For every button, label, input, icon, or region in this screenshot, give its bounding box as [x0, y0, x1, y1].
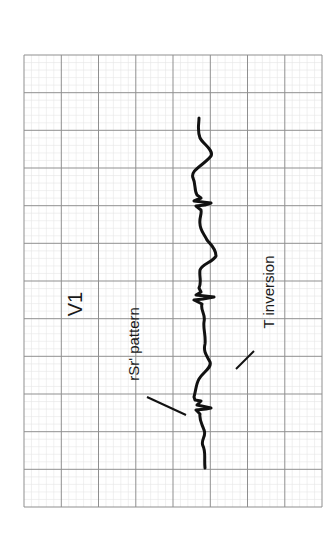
- lead-label: V1: [65, 292, 85, 316]
- t-inversion-pointer-line: [236, 351, 254, 369]
- rsr-pattern-label: rSr' pattern: [126, 307, 141, 381]
- ecg-trace: [193, 118, 216, 468]
- ecg-grid-and-trace: [0, 0, 328, 540]
- ecg-figure: V1 rSr' pattern T inversion: [0, 0, 328, 540]
- t-inversion-label: T inversion: [261, 255, 276, 328]
